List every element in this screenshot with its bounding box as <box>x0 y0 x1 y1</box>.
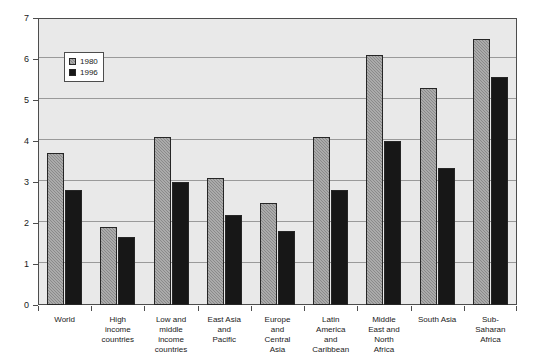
bar <box>366 55 383 305</box>
x-axis-category-label: MiddleEast andNorthAfrica <box>357 315 410 355</box>
x-axis-category-label-line: countries <box>144 345 197 355</box>
x-axis-category-label-line: Latin <box>304 315 357 325</box>
x-axis-category-label-line: North <box>357 335 410 345</box>
x-axis-category-label-line: America <box>304 325 357 335</box>
x-axis-category-label-line: Low and <box>144 315 197 325</box>
x-axis-category-label-line: Central <box>251 335 304 345</box>
chart-legend: 19801996 <box>64 52 104 82</box>
x-axis-category-label: World <box>38 315 91 325</box>
x-axis-category-label-line: Saharan <box>464 325 517 335</box>
x-axis-tick-mark <box>304 306 305 311</box>
x-axis-category-label: East AsiaandPacific <box>198 315 251 345</box>
x-axis-tick-mark <box>516 306 517 311</box>
x-axis-category-label-line: income <box>91 325 144 335</box>
bar <box>331 190 348 305</box>
bar <box>154 137 171 305</box>
legend-entry: 1996 <box>69 67 98 78</box>
bar <box>420 88 437 305</box>
bar <box>47 153 64 305</box>
x-axis-category-label-line: World <box>38 315 91 325</box>
bar <box>260 203 277 306</box>
x-axis-tick-mark <box>411 306 412 311</box>
x-axis-category-label-line: Africa <box>357 345 410 355</box>
bars-layer <box>38 18 517 305</box>
x-axis-tick-mark <box>38 306 39 311</box>
bar <box>65 190 82 305</box>
legend-label: 1980 <box>80 58 98 66</box>
x-axis-category-label-line: Middle <box>357 315 410 325</box>
legend-swatch-icon <box>69 58 76 65</box>
x-axis-category-label-line: High <box>91 315 144 325</box>
x-axis-tick-mark <box>251 306 252 311</box>
x-axis-category-label-line: Caribbean <box>304 345 357 355</box>
bar-chart: 01234567 WorldHighincomecountriesLow and… <box>0 0 541 361</box>
bar <box>100 227 117 305</box>
y-axis-tick-label: 7 <box>24 14 29 23</box>
bar <box>225 215 242 305</box>
bar <box>172 182 189 305</box>
x-axis-category-label-line: Pacific <box>198 335 251 345</box>
x-axis-category-label-line: and <box>198 325 251 335</box>
x-axis-category-label: EuropeandCentralAsia <box>251 315 304 355</box>
x-axis-category-label-line: and <box>251 325 304 335</box>
x-axis-category-label-line: Africa <box>464 335 517 345</box>
x-axis-tick-mark <box>91 306 92 311</box>
x-axis-category-label-line: East and <box>357 325 410 335</box>
x-axis-category-label-line: Sub- <box>464 315 517 325</box>
x-axis: WorldHighincomecountriesLow andmiddleinc… <box>38 306 517 361</box>
x-axis-category-label: Highincomecountries <box>91 315 144 345</box>
x-axis-tick-mark <box>357 306 358 311</box>
bar <box>473 39 490 306</box>
x-axis-tick-mark <box>198 306 199 311</box>
x-axis-category-label-line: income <box>144 335 197 345</box>
bar <box>118 237 135 305</box>
bar <box>384 141 401 305</box>
x-axis-category-label-line: South Asia <box>411 315 464 325</box>
legend-label: 1996 <box>80 69 98 77</box>
x-axis-category-label: LatinAmericaandCaribbean <box>304 315 357 355</box>
y-axis: 01234567 <box>0 0 38 361</box>
y-axis-tick-label: 4 <box>24 137 29 146</box>
x-axis-category-label: South Asia <box>411 315 464 325</box>
x-axis-category-label: Low andmiddleincomecountries <box>144 315 197 355</box>
x-axis-category-label: Sub-SaharanAfrica <box>464 315 517 345</box>
x-axis-tick-mark <box>144 306 145 311</box>
x-axis-category-label-line: East Asia <box>198 315 251 325</box>
legend-swatch-icon <box>69 69 76 76</box>
x-axis-category-label-line: countries <box>91 335 144 345</box>
y-axis-tick-label: 3 <box>24 178 29 187</box>
bar <box>438 168 455 305</box>
legend-entry: 1980 <box>69 56 98 67</box>
x-axis-tick-mark <box>464 306 465 311</box>
x-axis-category-label-line: middle <box>144 325 197 335</box>
x-axis-category-label-line: and <box>304 335 357 345</box>
x-axis-category-label-line: Europe <box>251 315 304 325</box>
y-axis-tick-label: 1 <box>24 260 29 269</box>
y-axis-tick-label: 0 <box>24 301 29 310</box>
y-axis-tick-label: 5 <box>24 96 29 105</box>
bar <box>491 77 508 305</box>
y-axis-tick-label: 6 <box>24 55 29 64</box>
bar <box>207 178 224 305</box>
y-axis-tick-label: 2 <box>24 219 29 228</box>
bar <box>278 231 295 305</box>
x-axis-category-label-line: Asia <box>251 345 304 355</box>
bar <box>313 137 330 305</box>
